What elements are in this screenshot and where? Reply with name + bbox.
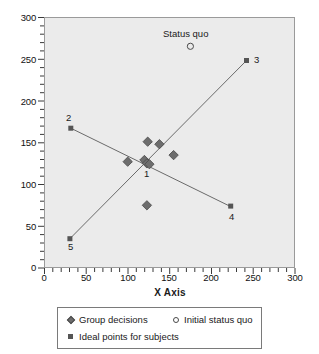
- ideal-point-marker-3: [244, 58, 249, 63]
- diamond-marker-icon: [66, 317, 75, 323]
- point-label-4: 4: [229, 211, 234, 222]
- ideal-point-marker-2: [68, 126, 73, 131]
- ideal-point-marker-4: [228, 204, 233, 209]
- chart-legend: Group decisions Initial status quo Ideal…: [57, 307, 262, 349]
- point-label-3: 3: [254, 54, 259, 65]
- connector-line-5-3: [70, 61, 247, 239]
- point-label-1: 1: [144, 168, 149, 179]
- x-axis-ticks: [45, 268, 296, 274]
- filled-square-marker-icon: [66, 334, 75, 339]
- legend-item-initial-status-quo: Initial status quo: [171, 314, 253, 325]
- point-label-5: 5: [68, 241, 73, 252]
- open-circle-marker-icon: [171, 317, 180, 323]
- legend-label-ideal-points: Ideal points for subjects: [79, 331, 179, 342]
- initial-status-quo-marker: [187, 43, 193, 49]
- legend-item-group-decisions: Group decisions: [66, 314, 148, 325]
- status-quo-annotation: Status quo: [163, 28, 208, 39]
- legend-label-initial-status-quo: Initial status quo: [184, 314, 253, 325]
- plot-vector-layer: [0, 0, 319, 354]
- y-axis-ticks: [38, 18, 44, 269]
- group-decision-markers: [123, 137, 178, 210]
- scatter-plot-figure: 300 250 200 150 100 50 0 0 50 100 150 20…: [0, 0, 319, 354]
- legend-item-ideal-points: Ideal points for subjects: [66, 331, 179, 342]
- point-label-2: 2: [66, 112, 71, 123]
- legend-label-group-decisions: Group decisions: [79, 314, 148, 325]
